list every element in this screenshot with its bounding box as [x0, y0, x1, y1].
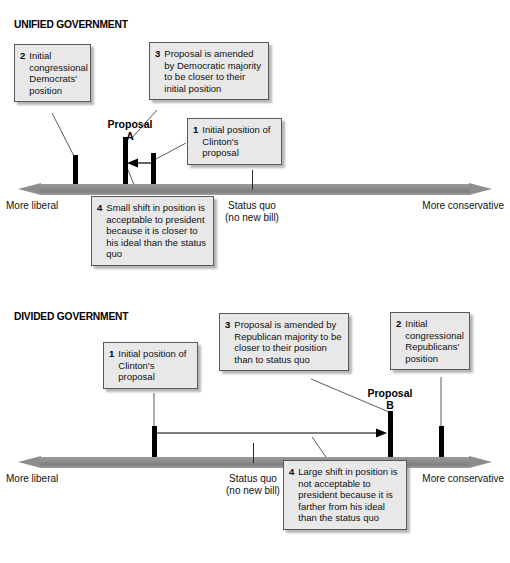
panel-title-unified: UNIFIED GOVERNMENT [14, 18, 128, 30]
axis-arrow-left-icon [18, 456, 41, 468]
marker-proposal-b [388, 411, 393, 459]
panel-divided-government: DIVIDED GOVERNMENT Proposal B [0, 285, 510, 563]
marker-proposal-a [123, 137, 128, 186]
callout-number: 4 [97, 202, 102, 214]
callout-2-divided[interactable]: 2 Initial congressional Republicans' pos… [390, 312, 470, 370]
axis-label-more-conservative-unified: More conservative [422, 200, 504, 211]
axis-arrow-left-icon [18, 183, 41, 195]
proposal-b-line2: B [386, 399, 394, 411]
status-quo-label-unified: Status quo (no new bill) [212, 200, 292, 224]
proposal-b-line1: Proposal [368, 387, 413, 399]
callout-text: Small shift in position is acceptable to… [106, 202, 207, 260]
tick-status-quo-unified [252, 170, 253, 190]
callout-number: 1 [109, 348, 114, 360]
callout-1-unified[interactable]: 1 Initial position of Clinton's proposal [187, 118, 282, 165]
callout-number: 3 [225, 319, 230, 331]
spectrum-axis-unified [18, 183, 492, 196]
marker-congressional-republicans [439, 426, 444, 459]
axis-bar [40, 184, 470, 195]
tick-status-quo-divided [253, 443, 254, 463]
callout-number: 4 [289, 466, 294, 478]
callout-text: Large shift in position is not acceptabl… [298, 466, 400, 524]
panel-unified-government: UNIFIED GOVERNMENT Proposal A [0, 0, 510, 285]
proposal-a-label: Proposal A [100, 118, 160, 142]
callout-4-divided[interactable]: 4 Large shift in position is not accepta… [283, 460, 407, 530]
callout-text: Proposal is amended by Republican majori… [234, 319, 342, 365]
status-quo-line2: (no new bill) [226, 485, 280, 496]
axis-label-more-liberal-unified: More liberal [6, 200, 58, 211]
callout-4-unified[interactable]: 4 Small shift in position is acceptable … [91, 196, 214, 266]
callout-number: 2 [20, 50, 25, 62]
panel-title-divided: DIVIDED GOVERNMENT [14, 310, 128, 322]
proposal-a-line1: Proposal [108, 118, 153, 130]
status-quo-line1: Status quo [228, 200, 276, 211]
callout-3-unified[interactable]: 3 Proposal is amended by Democratic majo… [149, 42, 269, 100]
callout-number: 1 [193, 124, 198, 136]
status-quo-line1: Status quo [229, 473, 277, 484]
callout-number: 2 [396, 318, 401, 330]
spectrum-axis-divided [18, 456, 492, 469]
marker-congressional-democrats [73, 155, 78, 186]
callout-text: Initial congressional Democrats' positio… [29, 50, 88, 96]
marker-clinton-initial-divided [152, 426, 157, 459]
callout-1-divided[interactable]: 1 Initial position of Clinton's proposal [103, 342, 198, 389]
callout-text: Proposal is amended by Democratic majori… [164, 48, 262, 94]
axis-arrow-right-icon [469, 456, 492, 468]
axis-arrow-right-icon [469, 183, 492, 195]
callout-text: Initial position of Clinton's proposal [118, 348, 191, 383]
callout-text: Initial position of Clinton's proposal [202, 124, 275, 159]
proposal-b-label: Proposal B [360, 387, 420, 411]
figure-canvas: UNIFIED GOVERNMENT Proposal A [0, 0, 510, 563]
callout-text: Initial congressional Republicans' posit… [405, 318, 464, 364]
axis-label-more-liberal-divided: More liberal [6, 473, 58, 484]
callout-2-unified[interactable]: 2 Initial congressional Democrats' posit… [14, 44, 91, 102]
callout-3-divided[interactable]: 3 Proposal is amended by Republican majo… [219, 313, 349, 371]
marker-clinton-initial-unified [151, 153, 156, 186]
status-quo-label-divided: Status quo (no new bill) [213, 473, 293, 497]
callout-number: 3 [155, 48, 160, 60]
axis-label-more-conservative-divided: More conservative [422, 473, 504, 484]
status-quo-line2: (no new bill) [225, 212, 279, 223]
